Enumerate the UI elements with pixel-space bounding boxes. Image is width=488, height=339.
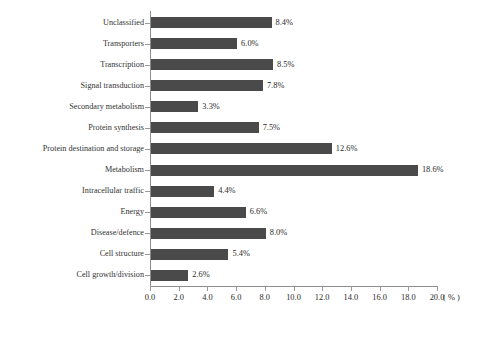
x-axis-tick [437,286,438,291]
bar [151,186,214,197]
y-axis-tick [145,128,150,129]
bar [151,270,188,281]
category-label: Metabolism [0,165,144,175]
bar-row: Transporters6.0% [0,33,488,54]
x-axis-tick [322,286,323,291]
category-label: Protein synthesis [0,123,144,133]
bar [151,122,259,133]
x-axis-tick [179,286,180,291]
y-axis-tick [145,149,150,150]
bar-value-label: 18.6% [422,165,444,175]
bar [151,207,246,218]
bar-row: Protein destination and storage12.6% [0,138,488,159]
bar [151,59,273,70]
category-label: Energy [0,207,144,217]
bar-chart: Unclassified8.4%Transporters6.0%Transcri… [0,0,488,339]
bar-value-label: 12.6% [336,144,358,154]
y-axis-tick [145,275,150,276]
bar-value-label: 8.0% [270,228,287,238]
bar-value-label: 2.6% [192,270,209,280]
x-axis-tick-label: 18.0 [401,292,416,303]
y-axis-tick [145,191,150,192]
bar-row: Disease/defence8.0% [0,223,488,244]
bar-value-label: 7.8% [267,81,284,91]
bar-value-label: 7.5% [263,123,280,133]
figure-caption [0,328,488,339]
bar-value-label: 3.3% [202,102,219,112]
bar-row: Energy6.6% [0,202,488,223]
x-axis-tick-label: 2.0 [173,292,183,303]
bar-value-label: 8.4% [276,18,293,28]
bar [151,38,237,49]
x-axis-tick [150,286,151,291]
category-label: Transporters [0,39,144,49]
x-axis-tick-label: 12.0 [315,292,330,303]
bar-row: Intracellular traffic4.4% [0,181,488,202]
y-axis-tick [145,86,150,87]
category-label: Transcription [0,60,144,70]
x-axis-unit-label: ( % ) [443,292,460,303]
bar [151,228,266,239]
y-axis-tick [145,107,150,108]
bar-rows: Unclassified8.4%Transporters6.0%Transcri… [0,12,488,286]
x-axis-tick [294,286,295,291]
category-label: Signal transduction [0,81,144,91]
category-label: Disease/defence [0,228,144,238]
bar-row: Metabolism18.6% [0,160,488,181]
y-axis-tick [145,212,150,213]
bar [151,101,198,112]
bar-row: Transcription8.5% [0,54,488,75]
category-label: Cell growth/division [0,270,144,280]
y-axis-tick [145,233,150,234]
x-axis-tick [265,286,266,291]
y-axis-tick [145,170,150,171]
x-axis-tick-label: 16.0 [372,292,387,303]
category-label: Protein destination and storage [0,144,144,154]
bar-row: Protein synthesis7.5% [0,117,488,138]
bar [151,143,332,154]
bar [151,165,418,176]
category-label: Unclassified [0,18,144,28]
y-axis-tick [145,23,150,24]
x-axis-tick-label: 10.0 [286,292,301,303]
x-axis-tick [351,286,352,291]
y-axis-tick [145,65,150,66]
y-axis-tick [145,44,150,45]
bar-value-label: 4.4% [218,186,235,196]
x-axis-tick [380,286,381,291]
category-label: Secondary metabolism [0,102,144,112]
bar-value-label: 8.5% [277,60,294,70]
bar-row: Signal transduction7.8% [0,75,488,96]
category-label: Cell structure [0,249,144,259]
bar-row: Secondary metabolism3.3% [0,96,488,117]
bar [151,17,272,28]
bar-row: Unclassified8.4% [0,12,488,33]
category-label: Intracellular traffic [0,186,144,196]
bar [151,80,263,91]
x-axis-tick [236,286,237,291]
bar [151,249,228,260]
x-axis-tick-label: 0.0 [145,292,155,303]
y-axis-tick [145,254,150,255]
bar-value-label: 5.4% [232,249,249,259]
bar-row: Cell growth/division2.6% [0,265,488,286]
bar-row: Cell structure5.4% [0,244,488,265]
x-axis-tick-label: 6.0 [231,292,241,303]
x-axis-tick [207,286,208,291]
x-axis-tick-label: 4.0 [202,292,212,303]
x-axis-tick [408,286,409,291]
x-axis-ticks: 0.02.04.06.08.010.012.014.016.018.020.0 [0,286,488,310]
bar-value-label: 6.6% [250,207,267,217]
bar-value-label: 6.0% [241,39,258,49]
x-axis-tick-label: 14.0 [344,292,359,303]
x-axis-tick-label: 8.0 [260,292,270,303]
